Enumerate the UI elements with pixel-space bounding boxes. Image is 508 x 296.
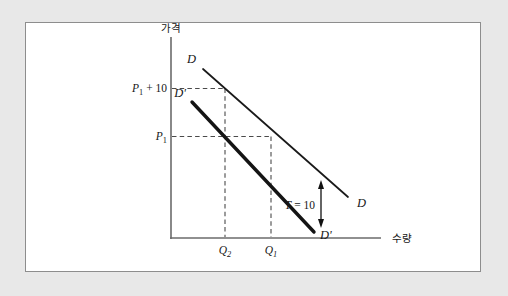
curve-d-original bbox=[203, 69, 348, 197]
figure-root: 가격 수량 D D D' D' P1 + 10 P1 Q2 Q1 T = 10 bbox=[0, 0, 508, 296]
quantity-tick-q2-sub: 2 bbox=[227, 250, 231, 259]
tax-equals: = bbox=[291, 199, 303, 211]
price-tick-p1-base: P bbox=[155, 130, 163, 142]
tax-arrow-head-down bbox=[318, 219, 324, 228]
price-tick-p1-plus-10-base: P bbox=[131, 82, 139, 94]
curve-label-dprime-end: D' bbox=[319, 228, 332, 242]
y-axis-label: 가격 bbox=[161, 23, 181, 34]
price-tick-p1-sub: 1 bbox=[163, 136, 167, 145]
quantity-tick-q1: Q1 bbox=[265, 244, 277, 259]
curve-d-shifted bbox=[192, 102, 314, 232]
quantity-tick-q2: Q2 bbox=[219, 244, 231, 259]
tax-arrow-head-up bbox=[318, 180, 324, 189]
tax-value: 10 bbox=[304, 199, 316, 211]
quantity-tick-q1-sub: 1 bbox=[273, 250, 277, 259]
x-axis-label: 수량 bbox=[392, 232, 412, 244]
price-tick-p1-plus-10: P1 + 10 bbox=[131, 82, 167, 97]
price-tick-p1-plus-10-suffix: + 10 bbox=[143, 82, 167, 94]
curve-label-d-end: D bbox=[356, 196, 366, 210]
plot-panel: 가격 수량 D D D' D' P1 + 10 P1 Q2 Q1 T = 10 bbox=[25, 22, 481, 272]
curve-label-dprime-top: D' bbox=[173, 86, 186, 100]
demand-shift-chart: 가격 수량 D D D' D' P1 + 10 P1 Q2 Q1 T = 10 bbox=[26, 23, 480, 271]
price-tick-p1: P1 bbox=[155, 130, 167, 145]
tax-annotation-label: T = 10 bbox=[285, 199, 315, 211]
curve-label-d-top: D bbox=[186, 52, 196, 66]
